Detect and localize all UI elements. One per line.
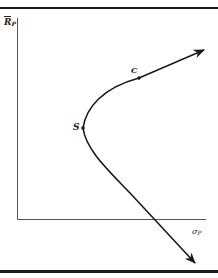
x-axis-label: σP xyxy=(192,228,202,236)
x-axis-label-sub: P xyxy=(197,229,201,236)
point-c-label: C xyxy=(131,66,137,74)
frontier-lower-branch xyxy=(83,128,195,263)
y-axis-label: RP xyxy=(4,18,16,27)
point-c-marker xyxy=(137,76,141,80)
overbar xyxy=(4,16,11,17)
plot-area xyxy=(0,0,218,278)
y-axis-label-sub: P xyxy=(11,20,16,27)
frontier-upper-branch xyxy=(83,50,204,128)
diagram-figure: RP σP S C xyxy=(0,0,218,278)
point-s-label: S xyxy=(73,123,80,132)
point-s-marker xyxy=(81,126,85,130)
